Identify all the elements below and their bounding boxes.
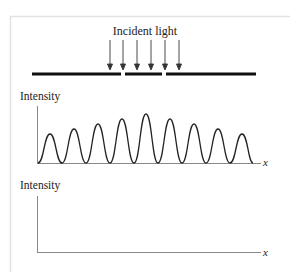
graph1-ylabel: Intensity (20, 90, 60, 103)
graph1-xlabel: x (262, 156, 268, 168)
incident-arrows (108, 40, 182, 70)
diagram-canvas: Incident light Intensity x Intensity x (0, 0, 303, 278)
interference-pattern-curve (38, 114, 253, 163)
graph2-xlabel: x (262, 246, 268, 258)
graph2-ylabel: Intensity (20, 179, 60, 192)
incident-light-label: Incident light (113, 24, 178, 38)
